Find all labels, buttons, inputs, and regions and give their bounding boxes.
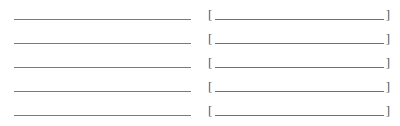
close-bracket: ]	[386, 80, 390, 94]
right-blank-line[interactable]	[215, 19, 384, 20]
right-blank-line[interactable]	[215, 67, 384, 68]
open-bracket: [	[208, 56, 212, 70]
bracketed-field[interactable]: [ ]	[208, 82, 390, 94]
close-bracket: ]	[386, 8, 390, 22]
form-row-2: [ ]	[0, 24, 400, 44]
bracketed-field[interactable]: [ ]	[208, 106, 390, 118]
right-blank-line[interactable]	[215, 43, 384, 44]
bracketed-field[interactable]: [ ]	[208, 58, 390, 70]
open-bracket: [	[208, 32, 212, 46]
bracketed-field[interactable]: [ ]	[208, 10, 390, 22]
left-blank-line[interactable]	[14, 91, 191, 92]
left-blank-line[interactable]	[14, 43, 191, 44]
close-bracket: ]	[386, 104, 390, 118]
form-row-3: [ ]	[0, 48, 400, 68]
open-bracket: [	[208, 8, 212, 22]
close-bracket: ]	[386, 56, 390, 70]
open-bracket: [	[208, 104, 212, 118]
right-blank-line[interactable]	[215, 91, 384, 92]
left-blank-line[interactable]	[14, 19, 191, 20]
form-row-5: [ ]	[0, 96, 400, 116]
left-blank-line[interactable]	[14, 115, 191, 116]
left-blank-line[interactable]	[14, 67, 191, 68]
close-bracket: ]	[386, 32, 390, 46]
open-bracket: [	[208, 80, 212, 94]
form-row-4: [ ]	[0, 72, 400, 92]
bracketed-field[interactable]: [ ]	[208, 34, 390, 46]
right-blank-line[interactable]	[215, 115, 384, 116]
form-row-1: [ ]	[0, 0, 400, 20]
